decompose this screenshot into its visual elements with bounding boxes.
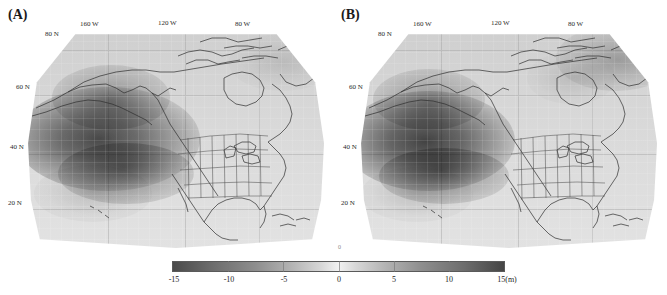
colorbar-label-pos10: 10 (445, 275, 453, 284)
panel-a-lat-tick-2: 40 N (10, 143, 24, 151)
panel-a-lat-tick-0: 80 N (45, 30, 59, 38)
figure-root: (A) (0, 0, 667, 295)
panel-a-map-clip (28, 30, 324, 248)
colorbar-label-neg15: -15 (169, 275, 180, 284)
panel-b-lon-tick-1: 120 W (491, 19, 510, 27)
colorbar-label-neg5: -5 (281, 275, 288, 284)
panel-a-coastlines (28, 30, 324, 248)
panel-b-lat-tick-2: 40 N (343, 143, 357, 151)
panel-a-lon-tick-2: 80 W (235, 20, 250, 28)
colorbar-label-pos15-unit: 15(m) (497, 275, 517, 284)
panel-b-map-clip (361, 30, 657, 248)
panel-b-lat-tick-1: 60 N (349, 83, 363, 91)
panel-b-coastlines (361, 30, 657, 248)
panel-a-lon-tick-1: 120 W (158, 19, 177, 27)
colorbar-label-neg10: -10 (224, 275, 235, 284)
panel-b-lat-tick-3: 20 N (341, 199, 355, 207)
panel-a-label: (A) (8, 7, 27, 23)
panel-a: (A) (0, 0, 333, 255)
colorbar-label-zero: 0 (337, 275, 341, 284)
panel-b-lat-tick-0: 80 N (378, 30, 392, 38)
panel-a-map: 160 W 120 W 80 W 80 N 60 N 40 N 20 N (28, 30, 324, 248)
panel-a-lat-tick-1: 60 N (16, 83, 30, 91)
panel-b: (B) (333, 0, 666, 255)
panel-a-lat-tick-3: 20 N (8, 199, 22, 207)
colorbar-area: 0 -15 -10 -5 0 5 10 15(m) (0, 258, 667, 295)
colorbar-ticks (172, 261, 505, 272)
panel-b-map: 160 W 120 W 80 W 80 N 60 N 40 N 20 N (361, 30, 657, 248)
zero-degree-mark: 0 (338, 244, 341, 250)
panel-b-lon-tick-2: 80 W (568, 20, 583, 28)
panel-b-lon-tick-0: 160 W (413, 20, 432, 28)
panel-b-label: (B) (341, 7, 360, 23)
colorbar-label-pos5: 5 (392, 275, 396, 284)
panel-a-lon-tick-0: 160 W (80, 20, 99, 28)
